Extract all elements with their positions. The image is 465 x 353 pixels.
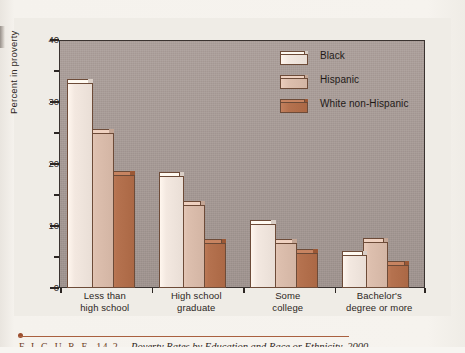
y-tick-label: 10 — [29, 220, 59, 231]
y-tick-label: 40 — [29, 34, 59, 45]
legend-swatch-front-face — [280, 102, 308, 113]
bar-front-face — [67, 83, 93, 288]
caption-rule — [19, 336, 349, 337]
bar-front-face — [159, 176, 185, 288]
bar-group — [67, 40, 130, 288]
legend-item: Hispanic — [280, 72, 430, 96]
x-tick — [424, 288, 426, 293]
bar-front-face — [250, 224, 276, 288]
legend-swatch-front-face — [280, 54, 308, 65]
bar — [159, 172, 185, 288]
y-axis-ticks: 010203040 — [14, 18, 59, 310]
x-axis-category-label: Bachelor'sdegree or more — [324, 290, 436, 313]
bar — [67, 79, 93, 288]
legend-swatch-front-face — [280, 78, 308, 89]
bar-chart: Percent in proverty 010203040 Less thanh… — [14, 18, 451, 316]
legend-label: Black — [320, 50, 345, 61]
legend-item: White non-Hispanic — [280, 96, 430, 120]
bar-group — [159, 40, 222, 288]
legend-label: White non-Hispanic — [320, 98, 409, 109]
legend-swatch — [280, 75, 308, 89]
figure-page: Percent in proverty 010203040 Less thanh… — [0, 0, 465, 353]
legend-swatch — [280, 51, 308, 65]
bar-front-face — [342, 255, 368, 288]
legend-swatch — [280, 99, 308, 113]
bar — [250, 220, 276, 288]
legend-label: Hispanic — [320, 74, 359, 85]
y-tick-label: 20 — [29, 158, 59, 169]
legend-item: Black — [280, 48, 430, 72]
x-axis-category-line: degree or more — [324, 302, 436, 314]
caption-clip-mask — [0, 347, 465, 353]
x-axis-category-line: Bachelor's — [324, 290, 436, 302]
bar — [342, 251, 368, 288]
chart-legend: BlackHispanicWhite non-Hispanic — [280, 48, 430, 120]
y-tick-label: 30 — [29, 96, 59, 107]
scan-edge-artifact — [0, 26, 5, 48]
